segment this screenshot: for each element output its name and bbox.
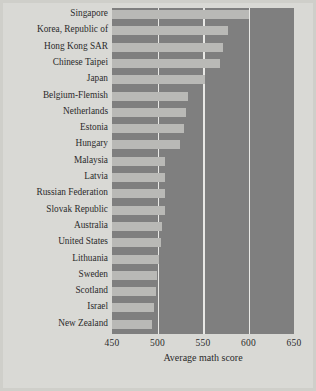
bar: [112, 255, 159, 264]
x-tick-label-500: 500: [150, 338, 165, 348]
gridline-500: [158, 8, 160, 334]
bar: [112, 320, 152, 329]
x-axis-tick-labels: 450500550600650: [0, 338, 316, 352]
category-label: Russian Federation: [0, 188, 108, 197]
plot-area: [112, 8, 294, 334]
bar-row: [112, 43, 223, 52]
category-label: Israel: [0, 302, 108, 311]
category-label: Japan: [0, 74, 108, 83]
category-label: Sweden: [0, 270, 108, 279]
category-label: New Zealand: [0, 319, 108, 328]
category-label: Hungary: [0, 139, 108, 148]
bar-row: [112, 92, 188, 101]
bar-row: [112, 222, 162, 231]
bar: [112, 92, 188, 101]
bar: [112, 271, 157, 280]
bar-row: [112, 320, 152, 329]
gridline-600: [249, 8, 251, 334]
category-label: Chinese Taipei: [0, 58, 108, 67]
bar: [112, 43, 223, 52]
category-label: Singapore: [0, 9, 108, 18]
category-label: Slovak Republic: [0, 205, 108, 214]
bar: [112, 189, 165, 198]
category-label: United States: [0, 237, 108, 246]
bar-row: [112, 108, 186, 117]
bar: [112, 10, 249, 19]
bar: [112, 287, 156, 296]
bar: [112, 75, 205, 84]
x-tick-label-600: 600: [241, 338, 256, 348]
bar-row: [112, 189, 165, 198]
bar: [112, 238, 161, 247]
bar: [112, 303, 154, 312]
bar-chart-figure: SingaporeKorea, Republic ofHong Kong SAR…: [0, 0, 316, 391]
category-label: Scotland: [0, 286, 108, 295]
category-axis-labels: SingaporeKorea, Republic ofHong Kong SAR…: [0, 8, 108, 334]
bar: [112, 206, 165, 215]
bar-row: [112, 303, 154, 312]
gridline-550: [203, 8, 205, 334]
bar-row: [112, 238, 161, 247]
bar-row: [112, 157, 165, 166]
category-label: Latvia: [0, 172, 108, 181]
bar-row: [112, 271, 157, 280]
bar-row: [112, 75, 205, 84]
x-tick-label-450: 450: [104, 338, 119, 348]
bar: [112, 124, 184, 133]
category-label: Hong Kong SAR: [0, 42, 108, 51]
bar-row: [112, 173, 165, 182]
bar-row: [112, 287, 156, 296]
bar-row: [112, 255, 159, 264]
category-label: Korea, Republic of: [0, 25, 108, 34]
bar: [112, 108, 186, 117]
category-label: Australia: [0, 221, 108, 230]
bar: [112, 222, 162, 231]
bar: [112, 26, 228, 35]
category-label: Netherlands: [0, 107, 108, 116]
x-tick-label-650: 650: [286, 338, 301, 348]
bar: [112, 59, 220, 68]
bar: [112, 157, 165, 166]
bar: [112, 173, 165, 182]
bar-row: [112, 140, 180, 149]
category-label: Estonia: [0, 123, 108, 132]
bar-row: [112, 26, 228, 35]
x-tick-label-550: 550: [195, 338, 210, 348]
bar: [112, 140, 180, 149]
category-label: Malaysia: [0, 156, 108, 165]
bar-row: [112, 206, 165, 215]
bar-row: [112, 10, 249, 19]
x-axis-title: Average math score: [112, 352, 294, 363]
category-label: Belgium-Flemish: [0, 91, 108, 100]
bar-row: [112, 59, 220, 68]
category-label: Lithuania: [0, 254, 108, 263]
bar-row: [112, 124, 184, 133]
